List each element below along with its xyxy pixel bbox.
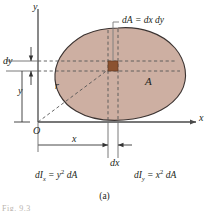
formula-ix-lead: dI: [35, 170, 43, 180]
area-label: A: [145, 76, 152, 87]
formula-iy-lead: dI: [134, 170, 142, 180]
da-callout-rhs: dx dy: [144, 15, 164, 25]
formula-moment-inertia-y: dIy = x2 dA: [134, 169, 176, 182]
diagram-canvas: [0, 0, 209, 211]
figure-container: y x O dy y r x dx A dA = dx dy dIx = y2 …: [0, 0, 209, 211]
y-axis-label: y: [33, 2, 37, 12]
formula-ix-tail: dA: [67, 170, 78, 180]
area-element-callout: dA = dx dy: [122, 16, 164, 26]
figure-number-footnote: Fig. 9.3: [2, 205, 31, 211]
formula-iy-tail: dA: [166, 170, 177, 180]
dy-arrow-down-head: [29, 56, 33, 62]
origin-label: O: [33, 126, 40, 136]
x-axis-arrowhead: [190, 120, 196, 125]
dx-label: dx: [110, 158, 119, 168]
formula-moment-inertia-x: dIx = y2 dA: [35, 169, 77, 182]
figure-caption: (a): [0, 192, 209, 202]
dx-dimension-arrow-left: [118, 143, 124, 147]
x-distance-label: x: [72, 134, 76, 144]
area-region-shape: [55, 28, 186, 121]
area-element-square: [108, 61, 118, 71]
x-axis-label: x: [199, 113, 203, 123]
dy-arrow-up-head: [29, 71, 33, 77]
y-distance-label: y: [18, 86, 22, 96]
da-callout-lead: dA: [122, 15, 133, 25]
dy-label: dy: [3, 56, 12, 66]
formula-ix-equals: = y: [48, 170, 61, 180]
r-radius-label: r: [55, 81, 59, 91]
x-dimension-arrow-right: [103, 143, 109, 147]
formula-iy-equals: = x: [147, 170, 160, 180]
